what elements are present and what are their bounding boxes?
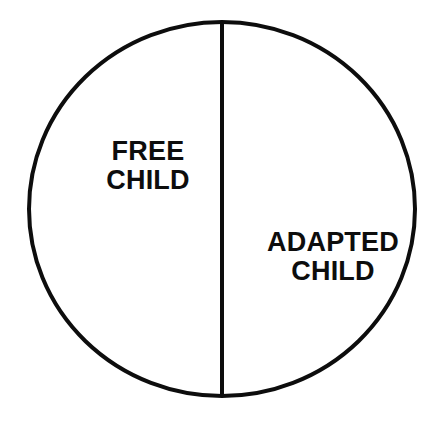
adapted-child-line-2: CHILD (267, 257, 399, 286)
free-child-line-2: CHILD (106, 166, 190, 195)
split-circle-diagram (0, 0, 440, 421)
free-child-line-1: FREE (106, 137, 190, 166)
segment-label-adapted-child: ADAPTED CHILD (267, 228, 399, 286)
diagram-canvas: FREE CHILD ADAPTED CHILD (0, 0, 440, 421)
segment-label-free-child: FREE CHILD (106, 137, 190, 195)
adapted-child-line-1: ADAPTED (267, 228, 399, 257)
